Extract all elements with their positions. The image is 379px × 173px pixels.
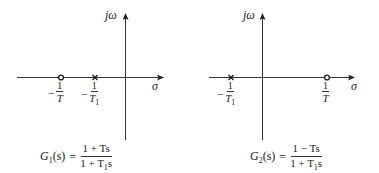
left-zero-label: − 1T — [48, 81, 63, 104]
left-diagram — [17, 14, 163, 140]
left-transfer-function: G1(s) = 1 + Ts 1 + T1s — [40, 143, 112, 172]
left-pole-label: − 1T1 — [81, 81, 99, 107]
right-tf-denominator: 1 + T1s — [290, 157, 322, 173]
left-tf-denominator: 1 + T1s — [80, 157, 112, 173]
right-sigma-label: σ — [351, 80, 357, 92]
right-jw-label: jω — [243, 9, 255, 21]
right-transfer-function: G2(s) = 1 − Ts 1 + T1s — [250, 143, 322, 172]
left-sigma-label: σ — [152, 80, 158, 92]
left-jw-label: jω — [105, 9, 117, 21]
right-diagram — [209, 14, 354, 140]
right-zero-label: 1T — [322, 81, 329, 104]
left-tf-numerator: 1 + Ts — [81, 143, 112, 157]
right-pole-label: − 1T1 — [217, 81, 235, 107]
right-tf-numerator: 1 − Ts — [291, 143, 322, 157]
